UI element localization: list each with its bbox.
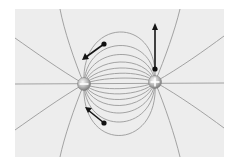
negative-charge	[78, 78, 91, 91]
dipole-field-diagram: − +	[0, 0, 236, 167]
positive-charge	[149, 76, 162, 89]
